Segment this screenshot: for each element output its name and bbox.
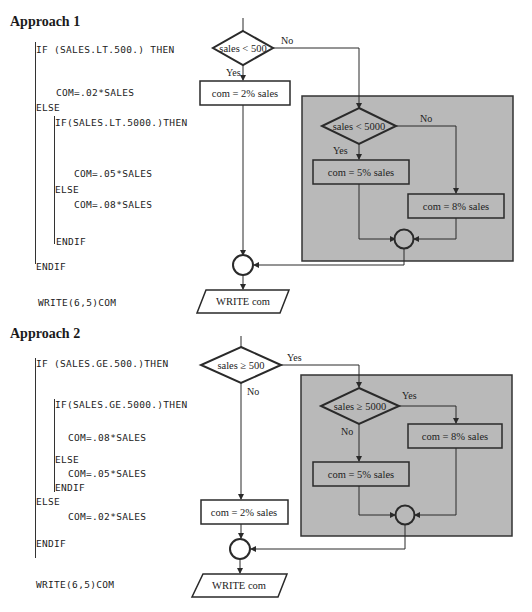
inner-connector <box>396 506 415 525</box>
decision-label: sales ≥ 5000 <box>334 401 386 412</box>
process-label: com = 2% sales <box>211 507 277 518</box>
branch-label-yes: Yes <box>287 352 302 363</box>
output-label: WRITE com <box>212 580 266 591</box>
branch-label-no: No <box>281 35 293 46</box>
outer-connector <box>233 255 253 275</box>
outer-connector <box>230 539 250 559</box>
branch-label-yes: Yes <box>226 67 241 78</box>
process-label: com = 5% sales <box>328 469 394 480</box>
branch-label-no: No <box>420 113 432 124</box>
decision-label: sales < 500 <box>219 43 266 54</box>
process-label: com = 2% sales <box>212 88 278 99</box>
decision-label: sales ≥ 500 <box>217 360 264 371</box>
process-label: com = 5% sales <box>328 167 394 178</box>
flowchart-approach-1 <box>197 18 513 313</box>
branch-label-no: No <box>247 386 259 397</box>
output-label: WRITE com <box>216 296 270 307</box>
branch-label-no: No <box>341 426 353 437</box>
process-label: com = 8% sales <box>423 201 489 212</box>
flowchart-approach-2 <box>192 336 512 597</box>
inner-connector <box>395 230 414 249</box>
process-label: com = 8% sales <box>422 431 488 442</box>
branch-label-yes: Yes <box>402 390 417 401</box>
decision-label: sales < 5000 <box>333 121 386 132</box>
branch-label-yes: Yes <box>333 145 348 156</box>
flowcharts: sales < 500 No Yes com = 2% sales sales … <box>0 0 532 612</box>
